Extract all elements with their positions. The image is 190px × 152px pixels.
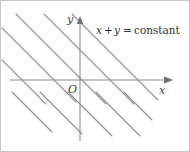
origin-label: O [68, 83, 77, 96]
equation-plus-sign: + [104, 24, 113, 36]
equation-annotation: x + y = constant [96, 24, 181, 36]
x-axis-label: x [159, 84, 166, 97]
figure-container: x y O x + y = constant [0, 0, 190, 152]
equation-equals-sign: = [123, 24, 132, 36]
coordinate-plot-svg: x y O x + y = constant [0, 0, 190, 152]
equation-constant-word: constant [134, 24, 181, 36]
equation-term-y: y [113, 24, 121, 36]
y-axis-label: y [66, 13, 74, 26]
equation-term-x: x [96, 24, 102, 36]
